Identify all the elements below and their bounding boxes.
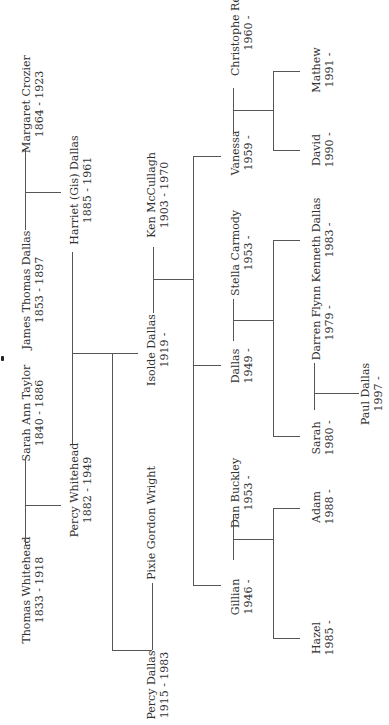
person-dates: 1980 -: [323, 420, 336, 455]
child-line-hazel: [273, 638, 300, 639]
children-line-vanessa: [273, 71, 274, 151]
person-dates: 1946 -: [242, 579, 255, 616]
person-name: Adam: [310, 489, 323, 524]
person-name: Pixie Gordon Wright: [145, 466, 158, 580]
person-dates: 1997 -: [372, 363, 385, 425]
marriage-line-sarah-darren: [314, 363, 315, 410]
person-dates: 1959 -: [242, 131, 255, 176]
marriage-line-isolde-ken: [153, 247, 154, 313]
child-line-paul: [314, 393, 359, 394]
child-line-dallas: [193, 365, 221, 366]
marriage-line-dallas-crozier: [25, 148, 26, 230]
person-dates: 1915 - 1983: [158, 650, 171, 719]
person-dates: 1949 -: [242, 348, 255, 383]
child-line-david: [273, 150, 300, 151]
person-name: Christophe Rey: [229, 0, 242, 76]
child-junction-vanessa: [233, 110, 274, 111]
person-name: Ken McCullagh: [145, 152, 158, 238]
children-line-isolde-ken: [193, 156, 194, 586]
person-dates: 1882 - 1949: [81, 443, 94, 538]
marriage-line-gillian-dan: [233, 514, 234, 560]
person-name: Hazel: [310, 620, 323, 655]
person-dates: 1983 -: [323, 198, 336, 283]
children-line-gillian: [273, 508, 274, 639]
person-name: James Thomas Dallas: [20, 231, 33, 350]
person-dates: 1833 - 1918: [33, 536, 46, 643]
person-dates: 1985 -: [323, 620, 336, 655]
person-name: Percy Whitehead: [68, 443, 81, 538]
person-dates: 1953 -: [242, 210, 255, 296]
person-dates: 1991 -: [323, 47, 336, 92]
person-dates: 1979 -: [323, 286, 336, 361]
child-line-vanessa: [193, 156, 221, 157]
person-dates: 1885 - 1961: [81, 135, 94, 244]
child-junction-dallas: [233, 320, 274, 321]
child-line-mathew: [273, 71, 300, 72]
person-name: Dallas: [229, 348, 242, 383]
marriage-line-percy-pixie: [152, 583, 153, 650]
person-name: Harriet (Gis) Dallas: [68, 135, 81, 244]
person-dates: 1988 -: [323, 489, 336, 524]
child-line-adam: [273, 508, 300, 509]
marriage-line-vanessa-christophe: [233, 88, 234, 134]
page-mark: [1, 356, 4, 361]
child-line-percy-whitehead: [25, 505, 61, 506]
children-line-dallas: [273, 240, 274, 437]
person-dates: 1903 - 1970: [158, 152, 171, 238]
marriage-line-percy-harriet: [72, 252, 73, 444]
child-line-gillian: [193, 585, 221, 586]
child-line-harriet: [25, 192, 61, 193]
person-name: Gillian: [229, 579, 242, 616]
person-name: Mathew: [310, 47, 323, 92]
child-line-isolde: [72, 353, 138, 354]
child-line-percy-dallas-vertical: [112, 353, 113, 650]
person-name: Isolde Dallas: [145, 314, 158, 386]
person-dates: 1990 -: [323, 132, 336, 167]
person-name: Stella Carmody: [229, 210, 242, 296]
person-name: Paul Dallas: [359, 363, 372, 425]
child-line-junction: [153, 279, 194, 280]
child-line-sarah: [273, 436, 300, 437]
person-name: Thomas Whitehead: [20, 536, 33, 643]
child-line-kenneth: [273, 240, 300, 241]
marriage-line-whitehead-taylor: [25, 457, 26, 545]
person-name: Kenneth Dallas: [310, 198, 323, 283]
person-name: Darren Flynn: [310, 286, 323, 361]
person-name: Sarah Ann Taylor: [20, 365, 33, 462]
child-junction-gillian: [233, 539, 274, 540]
person-dates: 1953 -: [242, 458, 255, 528]
person-dates: 1960 -: [242, 0, 255, 76]
person-dates: 1853 - 1897: [33, 231, 46, 350]
person-dates: 1919 -: [158, 314, 171, 386]
person-name: Vanessa: [229, 131, 242, 176]
person-dates: 1840 - 1886: [33, 365, 46, 462]
person-name: Sarah: [310, 420, 323, 455]
person-dates: 1864 - 1923: [33, 55, 46, 153]
person-name: Percy Dallas: [145, 650, 158, 719]
person-name: Margaret Crozier: [20, 55, 33, 153]
person-name: Dan Buckley: [229, 458, 242, 528]
person-name: David: [310, 132, 323, 167]
